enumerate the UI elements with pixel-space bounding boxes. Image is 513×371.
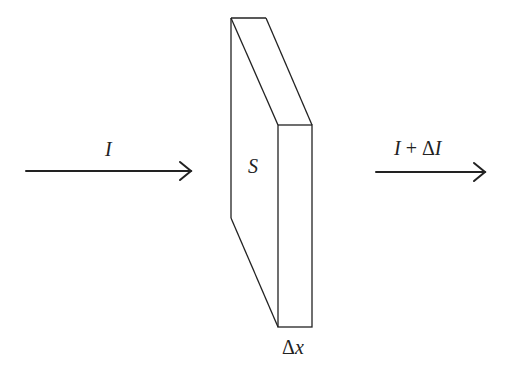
- outgoing-arrow-icon: [376, 163, 485, 181]
- incoming-intensity-label: I: [105, 138, 112, 161]
- incoming-arrow-icon: [26, 162, 191, 180]
- thickness-label: Δx: [282, 336, 304, 359]
- slab-diagram: [0, 0, 513, 371]
- outgoing-intensity-label: I + ΔI: [394, 137, 441, 160]
- face-area-label: S: [248, 155, 258, 178]
- slab: [231, 18, 312, 327]
- diagram-canvas: I I + ΔI S Δx: [0, 0, 513, 371]
